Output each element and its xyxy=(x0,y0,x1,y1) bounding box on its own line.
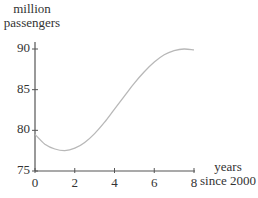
y-axis-label: million passengers xyxy=(2,2,62,30)
y-tick-label: 85 xyxy=(12,82,30,96)
x-tick-label: 0 xyxy=(27,176,43,190)
x-tick-label: 4 xyxy=(107,176,123,190)
y-axis-label-line-2: passengers xyxy=(2,16,62,30)
data-curve xyxy=(35,49,194,151)
x-axis-label-line-1: years xyxy=(199,160,257,174)
y-tick-label: 80 xyxy=(12,122,30,136)
x-tick-label: 6 xyxy=(146,176,162,190)
y-tick-label: 75 xyxy=(12,163,30,177)
x-tick-label: 2 xyxy=(67,176,83,190)
y-tick-label: 90 xyxy=(12,41,30,55)
y-axis-label-line-1: million xyxy=(2,2,62,16)
x-axis-label: years since 2000 xyxy=(199,160,257,188)
x-axis-label-line-2: since 2000 xyxy=(199,174,257,188)
